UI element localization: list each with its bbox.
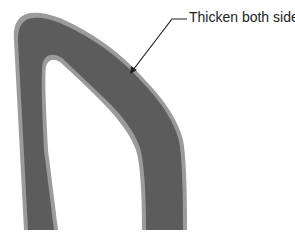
diagram-canvas: Thicken both sides (0, 0, 295, 236)
band-shape (0, 0, 295, 236)
leader-arrow (130, 19, 187, 74)
core-layer (18, 18, 183, 230)
annotation-label: Thicken both sides (189, 9, 295, 25)
